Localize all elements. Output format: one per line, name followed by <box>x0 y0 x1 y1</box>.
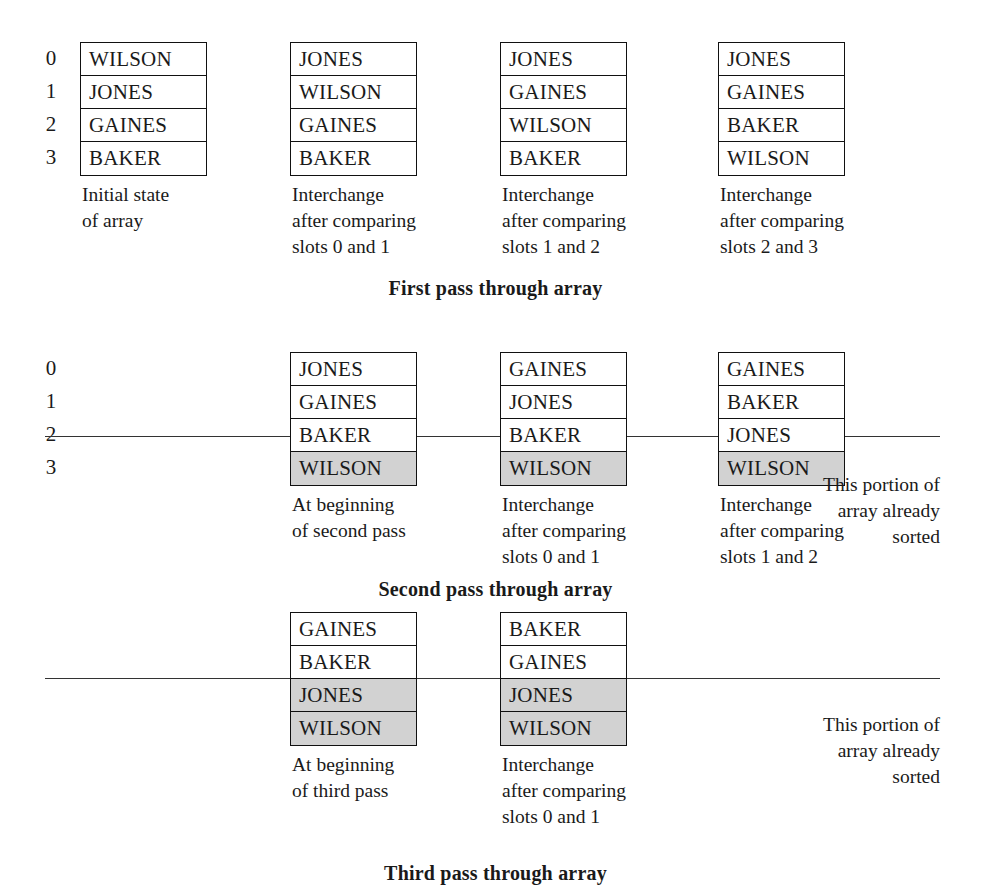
row-index-column: 0123 <box>40 352 62 484</box>
array-cell: WILSON <box>501 712 626 745</box>
array-snapshot: JONESGAINESBAKERWILSON <box>718 42 845 176</box>
array-snapshot: JONESGAINESWILSONBAKER <box>500 42 627 176</box>
array-cell: JONES <box>501 386 626 419</box>
array-cell: WILSON <box>501 109 626 142</box>
array-cell: JONES <box>291 353 416 386</box>
array-cell: BAKER <box>719 109 844 142</box>
array-cell: WILSON <box>291 712 416 745</box>
array-cell: GAINES <box>501 646 626 679</box>
array-cell: BAKER <box>501 419 626 452</box>
array-snapshot: JONESWILSONGAINESBAKER <box>290 42 417 176</box>
array-cell: BAKER <box>291 142 416 175</box>
row-index-2: 2 <box>40 108 62 141</box>
array-cell: JONES <box>291 679 416 712</box>
row-index-2: 2 <box>40 418 62 451</box>
snapshot-caption: Initial state of array <box>82 182 272 234</box>
row-index-0: 0 <box>40 42 62 75</box>
array-cell: JONES <box>81 76 206 109</box>
pass-title: Second pass through array <box>0 578 991 601</box>
array-cell: JONES <box>291 43 416 76</box>
array-cell: BAKER <box>291 419 416 452</box>
array-cell: BAKER <box>501 142 626 175</box>
array-cell: JONES <box>719 43 844 76</box>
snapshot-caption: Interchange after comparing slots 0 and … <box>502 492 692 570</box>
array-snapshot: GAINESJONESBAKERWILSON <box>500 352 627 486</box>
array-cell: BAKER <box>81 142 206 175</box>
array-cell: GAINES <box>501 76 626 109</box>
snapshot-caption: Interchange after comparing slots 0 and … <box>502 752 692 830</box>
pass-title: First pass through array <box>0 277 991 300</box>
snapshot-caption: At beginning of third pass <box>292 752 482 804</box>
array-cell: GAINES <box>81 109 206 142</box>
sorted-boundary-line <box>45 678 940 679</box>
array-cell: WILSON <box>81 43 206 76</box>
row-index-1: 1 <box>40 385 62 418</box>
array-cell: JONES <box>501 679 626 712</box>
array-cell: WILSON <box>719 142 844 175</box>
array-cell: WILSON <box>291 76 416 109</box>
array-cell: BAKER <box>719 386 844 419</box>
array-snapshot: GAINESBAKERJONESWILSON <box>718 352 845 486</box>
row-index-column: 0123 <box>40 42 62 174</box>
snapshot-caption: Interchange after comparing slots 2 and … <box>720 182 910 260</box>
array-cell: BAKER <box>501 613 626 646</box>
row-index-3: 3 <box>40 451 62 484</box>
array-cell: JONES <box>501 43 626 76</box>
array-cell: GAINES <box>501 353 626 386</box>
sorted-portion-note: This portion of array already sorted <box>740 712 940 790</box>
array-snapshot: JONESGAINESBAKERWILSON <box>290 352 417 486</box>
array-snapshot: GAINESBAKERJONESWILSON <box>290 612 417 746</box>
array-cell: GAINES <box>719 353 844 386</box>
row-index-3: 3 <box>40 141 62 174</box>
array-cell: GAINES <box>719 76 844 109</box>
snapshot-caption: At beginning of second pass <box>292 492 482 544</box>
array-cell: WILSON <box>291 452 416 485</box>
pass-title: Third pass through array <box>0 862 991 885</box>
array-cell: GAINES <box>291 613 416 646</box>
sorted-portion-note: This portion of array already sorted <box>740 472 940 550</box>
array-snapshot: WILSONJONESGAINESBAKER <box>80 42 207 176</box>
array-snapshot: BAKERGAINESJONESWILSON <box>500 612 627 746</box>
array-cell: BAKER <box>291 646 416 679</box>
row-index-1: 1 <box>40 75 62 108</box>
array-cell: WILSON <box>501 452 626 485</box>
snapshot-caption: Interchange after comparing slots 1 and … <box>502 182 692 260</box>
array-cell: JONES <box>719 419 844 452</box>
array-cell: GAINES <box>291 386 416 419</box>
snapshot-caption: Interchange after comparing slots 0 and … <box>292 182 482 260</box>
row-index-0: 0 <box>40 352 62 385</box>
array-cell: GAINES <box>291 109 416 142</box>
